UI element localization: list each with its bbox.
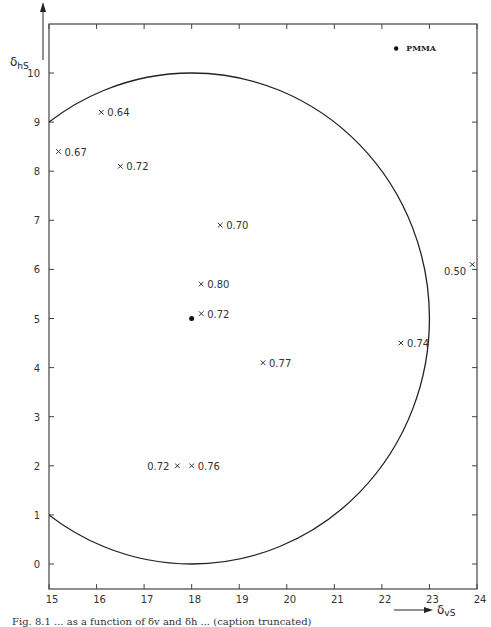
point-label: 0.64: [107, 107, 129, 118]
point-label: 0.80: [207, 279, 229, 290]
point-label: 0.50: [444, 266, 466, 277]
x-tick-label: 18: [188, 594, 201, 605]
figure-caption: Fig. 8.1 ... as a function of δv and δh …: [12, 616, 311, 627]
x-tick-label: 17: [141, 594, 154, 605]
data-point: 0.72: [118, 161, 149, 172]
y-tick-label: 2: [34, 461, 40, 472]
y-tick-label: 1: [34, 510, 40, 521]
y-tick-label: 7: [34, 215, 40, 226]
data-point: 0.76: [189, 461, 220, 472]
data-point: 0.72: [147, 461, 180, 472]
y-axis-arrow-icon: [40, 2, 46, 12]
circle-center-dot: [189, 316, 194, 321]
x-axis-arrow-icon: [424, 607, 433, 613]
x-tick-label: 19: [236, 594, 249, 605]
point-label: 0.70: [226, 220, 248, 231]
x-tick-label: 20: [283, 594, 296, 605]
y-tick-label: 10: [27, 68, 40, 79]
data-point: 0.67: [56, 147, 87, 158]
y-tick-label: 5: [34, 314, 40, 325]
data-point: 0.77: [261, 358, 292, 369]
point-label: 0.74: [407, 338, 429, 349]
point-label: 0.67: [65, 147, 87, 158]
data-point: 0.74: [399, 338, 430, 349]
x-tick-label: 22: [379, 594, 392, 605]
x-tick-label: 24: [474, 594, 487, 605]
point-label: 0.76: [198, 461, 220, 472]
y-tick-label: 4: [34, 363, 40, 374]
pmma-label: PMMA: [406, 43, 437, 53]
x-axis-title: δvS: [437, 603, 456, 618]
data-point: 0.70: [218, 220, 249, 231]
y-tick-label: 3: [34, 412, 40, 423]
x-tick-label: 15: [46, 594, 59, 605]
y-tick-label: 0: [34, 559, 40, 570]
data-point: 0.50: [444, 262, 475, 277]
data-point: 0.64: [99, 107, 130, 118]
pmma-dot: [394, 46, 398, 50]
data-point: 0.72: [199, 309, 230, 320]
data-point: 0.80: [199, 279, 230, 290]
point-label: 0.72: [126, 161, 148, 172]
y-tick-label: 6: [34, 264, 40, 275]
y-tick-label: 9: [34, 117, 40, 128]
y-axis-title: δhS: [10, 55, 29, 71]
point-label: 0.77: [269, 358, 291, 369]
point-label: 0.72: [147, 461, 169, 472]
point-label: 0.72: [207, 309, 229, 320]
x-tick-label: 16: [93, 594, 106, 605]
y-tick-label: 8: [34, 166, 40, 177]
x-tick-label: 21: [331, 594, 344, 605]
